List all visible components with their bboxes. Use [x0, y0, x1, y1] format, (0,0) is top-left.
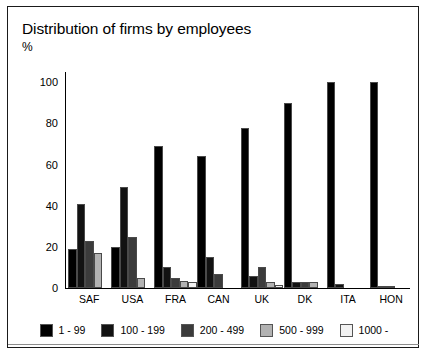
x-tick-label: DK — [284, 293, 327, 305]
bar — [188, 282, 197, 288]
legend-swatch — [260, 324, 273, 337]
bar — [137, 278, 146, 288]
bar — [94, 253, 103, 288]
bar — [85, 241, 94, 288]
legend-swatch — [40, 324, 53, 337]
x-tick-label: SAF — [68, 293, 111, 305]
bar — [111, 247, 120, 288]
bar-stack — [370, 72, 413, 288]
legend-item[interactable]: 1 - 99 — [40, 324, 86, 337]
bar-stack — [284, 72, 327, 288]
legend-label: 1 - 99 — [59, 324, 86, 336]
bar — [197, 156, 206, 288]
bar-group: CAN — [197, 72, 240, 288]
chart-legend: 1 - 99100 - 199200 - 499500 - 9991000 - — [18, 320, 410, 340]
legend-label: 500 - 999 — [279, 324, 323, 336]
y-tick-label: 20 — [46, 241, 58, 253]
legend-item[interactable]: 1000 - — [340, 324, 389, 337]
x-tick-label: UK — [241, 293, 284, 305]
legend-label: 1000 - — [359, 324, 389, 336]
bar — [387, 286, 396, 288]
bar — [68, 249, 77, 288]
legend-divider — [8, 344, 419, 345]
y-tick-label: 100 — [40, 76, 58, 88]
chart-title: Distribution of firms by employees — [22, 20, 251, 38]
bar-group: USA — [111, 72, 154, 288]
bar — [163, 267, 172, 288]
bar — [266, 282, 275, 288]
y-tick-label: 80 — [46, 117, 58, 129]
x-axis-line — [65, 288, 410, 289]
bar-group: ITA — [327, 72, 370, 288]
legend-label: 200 - 499 — [200, 324, 244, 336]
legend-item[interactable]: 500 - 999 — [260, 324, 323, 337]
legend-item[interactable]: 200 - 499 — [181, 324, 244, 337]
bar — [154, 146, 163, 288]
x-tick-label: ITA — [327, 293, 370, 305]
bar — [206, 257, 215, 288]
bar — [214, 274, 223, 288]
bar — [171, 278, 180, 288]
bar — [327, 82, 336, 288]
legend-label: 100 - 199 — [120, 324, 164, 336]
bar-group: UK — [241, 72, 284, 288]
bar — [120, 187, 129, 288]
bar — [241, 128, 250, 288]
bar — [180, 281, 189, 288]
y-axis-line — [65, 72, 66, 289]
legend-item[interactable]: 100 - 199 — [101, 324, 164, 337]
x-tick-label: FRA — [154, 293, 197, 305]
bar — [249, 276, 258, 288]
bar-stack — [154, 72, 197, 288]
bar-stack — [197, 72, 240, 288]
bar — [128, 237, 137, 288]
bar-stack — [327, 72, 370, 288]
x-tick-label: USA — [111, 293, 154, 305]
bar-stack — [68, 72, 111, 288]
bar — [275, 285, 284, 288]
bar — [301, 282, 310, 288]
bar — [309, 282, 318, 288]
bar-group: DK — [284, 72, 327, 288]
y-tick-label: 40 — [46, 200, 58, 212]
legend-swatch — [181, 324, 194, 337]
x-tick-label: CAN — [197, 293, 240, 305]
legend-swatch — [101, 324, 114, 337]
bar-group: HON — [370, 72, 413, 288]
bar — [378, 286, 387, 288]
bar — [335, 284, 344, 288]
bar — [284, 103, 293, 288]
bar-group: SAF — [68, 72, 111, 288]
bar — [370, 82, 379, 288]
bar-stack — [111, 72, 154, 288]
bar-group: FRA — [154, 72, 197, 288]
x-tick-label: HON — [370, 293, 413, 305]
plot-area: 020406080100 SAFUSAFRACANUKDKITAHON — [65, 72, 410, 288]
y-axis-unit-label: % — [22, 40, 33, 54]
legend-swatch — [340, 324, 353, 337]
y-tick-label: 0 — [52, 282, 58, 294]
bar-stack — [241, 72, 284, 288]
bar — [258, 267, 267, 288]
y-tick-label: 60 — [46, 159, 58, 171]
bar — [77, 204, 86, 288]
chart-figure: Distribution of firms by employees % 020… — [0, 0, 427, 355]
bar — [292, 282, 301, 288]
